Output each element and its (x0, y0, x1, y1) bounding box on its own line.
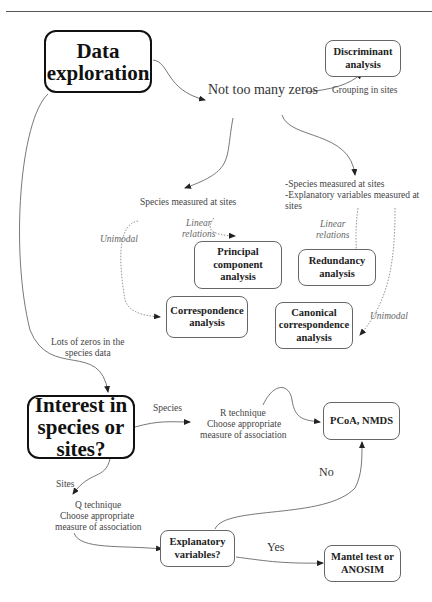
not-too-many-zeros-label: Not too many zeros (208, 84, 318, 95)
linear-relations-label-1b: relations (182, 229, 215, 240)
r-technique-label-1: R technique (220, 408, 266, 419)
unimodal-label-2: Unimodal (370, 311, 408, 322)
lots-of-zeros-label-2: species data (65, 348, 111, 359)
interest-species-sites-node: Interest in species or sites? (27, 395, 135, 459)
r-technique-label-3: measure of association (200, 430, 287, 441)
q-technique-label-2: Choose appropriate (60, 511, 134, 522)
mantel-anosim-node: Mantel test or ANOSIM (324, 545, 401, 582)
unimodal-label-1: Unimodal (100, 234, 138, 245)
species-measured-label: Species measured at sites (140, 197, 236, 208)
discriminant-analysis-node: Discriminant analysis (325, 40, 401, 77)
species-explanatory-label-3: sites (285, 201, 302, 212)
q-technique-label-3: measure of association (55, 522, 142, 533)
lots-of-zeros-label-1: Lots of zeros in the (51, 337, 124, 348)
linear-relations-label-1: Linear (186, 218, 211, 229)
pcoa-nmds-node: PCoA, NMDS (323, 402, 400, 440)
linear-relations-label-2b: relations (316, 230, 349, 241)
species-explanatory-label-1: -Species measured at sites (285, 179, 384, 190)
explanatory-variables-node: Explanatory variables? (160, 530, 235, 567)
species-label: Species (153, 403, 182, 414)
yes-label: Yes (267, 542, 284, 553)
correspondence-analysis-node: Correspondence analysis (166, 296, 248, 338)
q-technique-label-1: Q technique (75, 500, 121, 511)
grouping-in-sites-label: Grouping in sites (332, 85, 397, 96)
r-technique-label-2: Choose appropriate (207, 419, 281, 430)
data-exploration-node: Data exploration (44, 30, 152, 93)
no-label: No (319, 467, 334, 478)
redundancy-analysis-node: Redundancy analysis (298, 249, 376, 286)
pca-node: Principal component analysis (194, 241, 282, 289)
cca-node: Canonical correspondence analysis (275, 302, 353, 349)
sites-label: Sites (56, 479, 74, 490)
species-explanatory-label-2: -Explanatory variables measured at (285, 190, 419, 201)
linear-relations-label-2: Linear (320, 219, 345, 230)
